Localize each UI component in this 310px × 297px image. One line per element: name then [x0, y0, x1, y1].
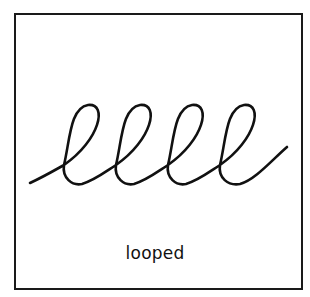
diagram-caption: looped — [0, 243, 310, 263]
